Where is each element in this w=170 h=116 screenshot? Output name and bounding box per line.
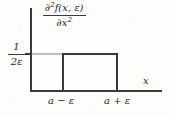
y-label-denominator: 2ε [8, 55, 25, 68]
x-axis-label: x [143, 75, 149, 86]
expression-numerator: ∂2f(x, ε) [43, 2, 86, 16]
denominator-exponent: 2 [67, 16, 71, 24]
rectangular-pulse-curve [62, 53, 118, 92]
x-tick-label-left: a − ε [48, 95, 74, 106]
y-label-numerator: 1 [8, 41, 25, 55]
expression-denominator: ∂x2 [43, 16, 86, 29]
numerator-function: f(x, ε) [55, 2, 84, 13]
y-axis-line [30, 8, 32, 92]
derivative-figure: ∂2f(x, ε) ∂x2 1 2ε a − ε a + ε x [0, 0, 170, 116]
x-axis-line [30, 90, 162, 92]
y-axis-value-label: 1 2ε [8, 41, 25, 67]
level-guide-line [32, 53, 62, 55]
x-tick-label-right: a + ε [104, 95, 130, 106]
derivative-expression: ∂2f(x, ε) ∂x2 [43, 2, 86, 28]
partial-x-symbol: ∂x [57, 17, 68, 28]
